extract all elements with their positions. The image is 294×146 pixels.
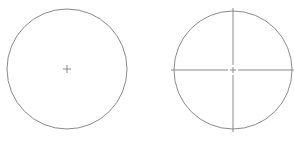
circle-with-centerlines bbox=[171, 8, 294, 132]
diagram-canvas bbox=[0, 0, 294, 146]
circle-with-center-mark bbox=[7, 9, 127, 129]
